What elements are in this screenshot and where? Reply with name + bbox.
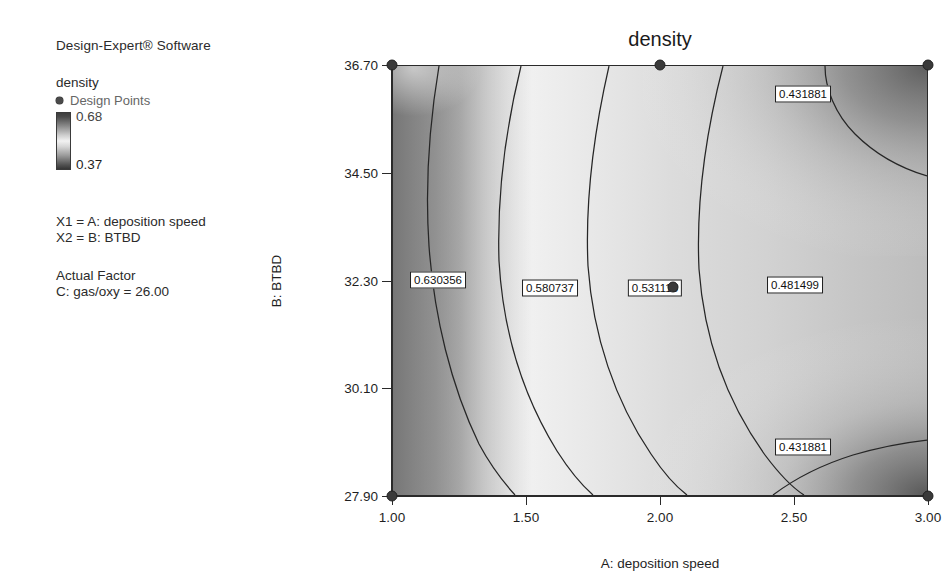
x-tick-label: 2.50: [781, 510, 807, 525]
response-name: density: [56, 75, 306, 90]
contour-label: 0.580737: [522, 280, 578, 297]
factor-definitions: X1 = A: deposition speed X2 = B: BTBD: [56, 214, 306, 246]
contour-plot-page: Design-Expert® Software density Design P…: [0, 0, 952, 582]
contour-label: 0.630356: [410, 272, 466, 289]
x-tick-mark: [660, 496, 661, 505]
factor-x2: X2 = B: BTBD: [56, 230, 306, 246]
contour-label: 0.481499: [767, 277, 823, 294]
design-point: [923, 491, 934, 502]
design-point: [923, 60, 934, 71]
x-tick-label: 1.00: [379, 510, 405, 525]
software-title: Design-Expert® Software: [56, 38, 306, 53]
design-points-label: Design Points: [70, 93, 150, 108]
y-tick-mark: [382, 173, 391, 174]
x-tick-mark: [526, 496, 527, 505]
design-point: [655, 60, 666, 71]
plot-area: 36.70 34.50 32.30 30.10 27.90 1.00 1.50 …: [392, 65, 928, 496]
y-tick-mark: [382, 388, 391, 389]
design-point: [387, 491, 398, 502]
y-tick-label: 34.50: [344, 165, 378, 180]
x-tick-label: 1.50: [513, 510, 539, 525]
x-tick-label: 3.00: [915, 510, 941, 525]
y-tick-label: 30.10: [344, 381, 378, 396]
y-axis-title: B: BTBD: [269, 255, 284, 308]
y-tick-mark: [382, 281, 391, 282]
x-axis-title: A: deposition speed: [392, 556, 928, 571]
factor-x1: X1 = A: deposition speed: [56, 214, 306, 230]
y-tick-label: 32.30: [344, 273, 378, 288]
scale-high-value: 0.68: [76, 109, 102, 124]
design-point-icon: [56, 97, 63, 104]
x-tick-mark: [794, 496, 795, 505]
color-scale-legend: 0.68 0.37: [56, 112, 306, 168]
color-scale-values: 0.68 0.37: [76, 112, 156, 168]
design-point: [387, 60, 398, 71]
y-tick-label: 36.70: [344, 58, 378, 73]
design-point: [668, 282, 679, 293]
y-tick-label: 27.90: [344, 489, 378, 504]
contour-label: 0.431881: [775, 86, 831, 103]
y-axis-line: [391, 65, 392, 496]
x-tick-label: 2.00: [647, 510, 673, 525]
design-points-legend: Design Points: [56, 93, 306, 108]
scale-low-value: 0.37: [76, 157, 102, 172]
color-scale-bar: [56, 112, 71, 170]
contour-label: 0.431881: [775, 439, 831, 456]
chart-title: density: [392, 28, 928, 51]
